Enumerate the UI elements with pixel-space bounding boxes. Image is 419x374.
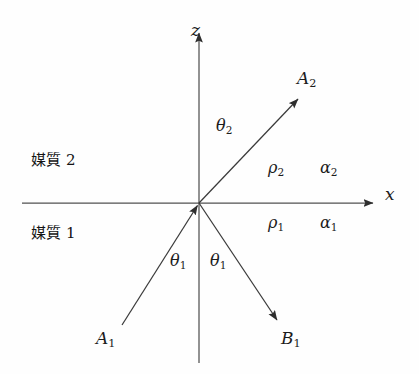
incidence-angle-label: θ1 bbox=[170, 253, 186, 271]
reflected-ray-symbol: B bbox=[281, 328, 294, 348]
reflection-angle-label: θ1 bbox=[210, 253, 226, 271]
rho2-symbol: ρ bbox=[268, 158, 277, 177]
theta1-reflected-subscript: 1 bbox=[220, 259, 227, 271]
wave-interface-diagram: z x A2 A1 B1 θ2 θ1 θ1 ρ2 α2 ρ1 α1 媒質2 媒質… bbox=[0, 0, 419, 374]
medium-2-label: 媒質2 bbox=[31, 153, 76, 168]
medium-2-text: 媒質 bbox=[31, 151, 61, 169]
refracted-ray-symbol: A bbox=[297, 68, 309, 88]
diagram-canvas bbox=[0, 0, 419, 374]
medium-1-label: 媒質1 bbox=[31, 226, 76, 241]
medium-2-number: 2 bbox=[66, 151, 76, 169]
reflected-ray-subscript: 1 bbox=[294, 337, 301, 350]
refracted-ray-label: A2 bbox=[297, 70, 316, 89]
x-axis-label: x bbox=[385, 186, 395, 203]
alpha2-subscript: 2 bbox=[331, 166, 338, 178]
theta2-subscript: 2 bbox=[226, 124, 233, 136]
incident-ray-label: A1 bbox=[96, 330, 115, 349]
rho2-subscript: 2 bbox=[277, 166, 284, 178]
attenuation-upper-label: α2 bbox=[320, 160, 338, 178]
incident-ray-symbol: A bbox=[96, 328, 108, 348]
rho1-subscript: 1 bbox=[277, 221, 284, 233]
reflected-ray-label: B1 bbox=[281, 330, 301, 349]
z-axis-label: z bbox=[191, 22, 200, 39]
theta1-reflected-symbol: θ bbox=[210, 251, 220, 270]
refraction-angle-label: θ2 bbox=[216, 118, 232, 136]
refracted-ray-subscript: 2 bbox=[309, 77, 316, 90]
theta2-symbol: θ bbox=[216, 116, 226, 135]
density-lower-label: ρ1 bbox=[268, 215, 284, 233]
rho1-symbol: ρ bbox=[268, 213, 277, 232]
incident-ray-subscript: 1 bbox=[108, 337, 115, 350]
density-upper-label: ρ2 bbox=[268, 160, 284, 178]
refracted-ray-line bbox=[199, 99, 298, 203]
medium-1-text: 媒質 bbox=[31, 224, 61, 242]
medium-1-number: 1 bbox=[66, 224, 76, 242]
alpha1-subscript: 1 bbox=[331, 221, 338, 233]
alpha1-symbol: α bbox=[320, 213, 331, 232]
theta1-incident-symbol: θ bbox=[170, 251, 180, 270]
theta1-incident-subscript: 1 bbox=[180, 259, 187, 271]
alpha2-symbol: α bbox=[320, 158, 331, 177]
attenuation-lower-label: α1 bbox=[320, 215, 338, 233]
